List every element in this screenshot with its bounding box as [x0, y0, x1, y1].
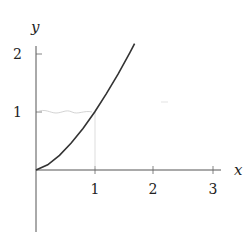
curve-line — [36, 44, 135, 170]
x-tick-label-2: 2 — [149, 181, 158, 197]
chart: x y 1 2 3 1 2 — [0, 0, 252, 235]
x-tick-label-1: 1 — [91, 181, 100, 197]
faint-wavy-guide — [37, 110, 92, 113]
y-axis-label: y — [30, 18, 40, 36]
y-ticks — [36, 54, 42, 112]
y-tick-label-1: 1 — [13, 104, 22, 120]
y-tick-label-2: 2 — [13, 46, 22, 62]
x-tick-label-3: 3 — [209, 181, 218, 197]
x-axis-label: x — [234, 161, 243, 179]
